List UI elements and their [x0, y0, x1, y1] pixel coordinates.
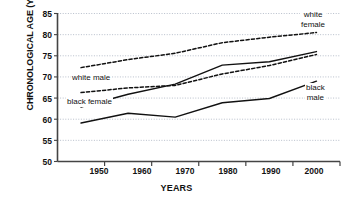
- x-axis-tick-label: 1980: [208, 166, 248, 176]
- x-axis-tick-label: 1960: [122, 166, 162, 176]
- y-axis-tick-label: 50: [26, 157, 52, 167]
- axes-group: [54, 13, 340, 162]
- annotation-line-2: female: [301, 20, 325, 30]
- y-axis-tick-label: 85: [26, 9, 52, 19]
- series-lines-group: [81, 33, 316, 123]
- x-axis-tick-label: 1990: [251, 166, 291, 176]
- series-annotation-black-female: black female: [66, 97, 113, 107]
- y-axis-tick-label: 80: [26, 30, 52, 40]
- y-axis-tick-label: 55: [26, 136, 52, 146]
- series-line-white-male: [81, 55, 316, 93]
- y-axis-tick-label: 70: [26, 72, 52, 82]
- series-annotation-white-female: whitefemale: [300, 10, 326, 29]
- series-annotation-black-male: blackmale: [305, 83, 326, 102]
- y-axis-tick-label: 75: [26, 51, 52, 61]
- annotation-line-2: male: [306, 93, 325, 103]
- series-annotation-white-male: white male: [71, 73, 111, 83]
- x-axis-tick-label: 1970: [165, 166, 205, 176]
- y-axis-tick-label: 65: [26, 94, 52, 104]
- annotation-line-1: white: [301, 10, 325, 20]
- x-axis-title: YEARS: [0, 183, 353, 193]
- y-axis-tick-label: 60: [26, 115, 52, 125]
- chart-container: CHRONOLOGICAL AGE (YEARS) YEARS 85807570…: [0, 0, 353, 201]
- series-line-black-male: [81, 81, 316, 123]
- annotation-line-1: black: [306, 83, 325, 93]
- x-axis-tick-label: 1950: [79, 166, 119, 176]
- x-axis-tick-label: 2000: [294, 166, 334, 176]
